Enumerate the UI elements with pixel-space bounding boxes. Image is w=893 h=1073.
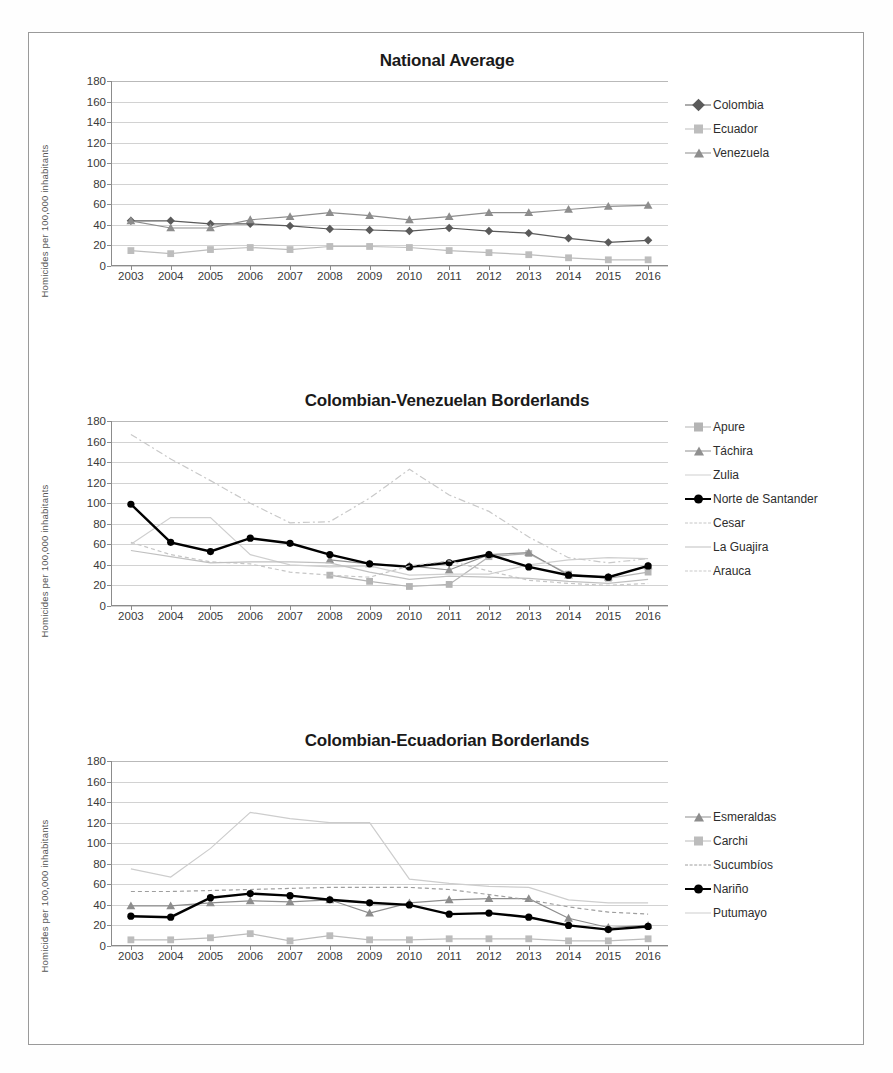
series-marker	[207, 894, 214, 901]
series-marker	[167, 539, 174, 546]
series-marker	[365, 226, 373, 234]
plot-wrap: 020406080100120140160180 200320042005200…	[55, 751, 865, 1041]
x-tick-label: 2016	[635, 610, 661, 622]
series-marker	[565, 254, 572, 261]
x-tick-label: 2010	[397, 270, 423, 282]
legend-marker-icon	[685, 445, 711, 457]
series-marker	[645, 562, 652, 569]
legend-item[interactable]: Esmeraldas	[685, 807, 885, 827]
series-marker	[446, 935, 453, 942]
series-marker	[207, 934, 214, 941]
y-tick-label: 100	[60, 837, 106, 849]
series-marker	[127, 501, 134, 508]
series-marker	[167, 936, 174, 943]
x-tick-label: 2010	[397, 950, 423, 962]
y-tick-label: 40	[60, 899, 106, 911]
series-layer	[111, 81, 668, 266]
chart-title: Colombian-Venezuelan Borderlands	[29, 391, 865, 411]
y-tick-label: 0	[60, 600, 106, 612]
plot-wrap: 020406080100120140160180 200320042005200…	[55, 71, 865, 371]
legend-item[interactable]: Apure	[685, 417, 885, 437]
x-tick-label: 2015	[596, 950, 622, 962]
y-tick-label: 180	[60, 75, 106, 87]
series-marker	[525, 229, 533, 237]
series-marker	[604, 238, 612, 246]
x-tick-label: 2007	[277, 270, 303, 282]
y-tick-label: 100	[60, 157, 106, 169]
legend-label: Cesar	[713, 516, 745, 530]
legend-item[interactable]: Arauca	[685, 561, 885, 581]
legend-marker-icon	[685, 907, 711, 919]
series-line	[131, 887, 648, 914]
y-tick-label: 40	[60, 559, 106, 571]
y-axis-label: Homicides per 100,000 inhabitants	[33, 71, 55, 371]
legend-marker-icon	[685, 99, 711, 111]
x-tick-label: 2008	[317, 610, 343, 622]
x-tick-label: 2005	[198, 610, 224, 622]
series-marker	[167, 250, 174, 257]
series-marker	[605, 937, 612, 944]
series-marker	[564, 234, 572, 242]
x-tick-label: 2013	[516, 610, 542, 622]
series-marker	[525, 251, 532, 258]
x-tick-label: 2003	[118, 270, 144, 282]
y-tick-label: 160	[60, 776, 106, 788]
x-tick-label: 2015	[596, 270, 622, 282]
y-tick-label: 140	[60, 456, 106, 468]
series-marker	[485, 910, 492, 917]
series-marker	[127, 913, 134, 920]
x-tick-label: 2003	[118, 610, 144, 622]
legend-label: Táchira	[713, 444, 753, 458]
legend-label: Arauca	[713, 564, 751, 578]
legend-marker-icon	[685, 541, 711, 553]
legend-item[interactable]: Ecuador	[685, 119, 885, 139]
x-tick-label: 2014	[556, 610, 582, 622]
series-marker	[644, 201, 653, 209]
chart-colombian-ecuadorian-borderlands: Colombian-Ecuadorian Borderlands Homicid…	[29, 719, 865, 1046]
legend-item[interactable]: Nariño	[685, 879, 885, 899]
series-marker	[446, 581, 453, 588]
series-marker	[445, 224, 453, 232]
legend-item[interactable]: Cesar	[685, 513, 885, 533]
series-marker	[406, 936, 413, 943]
legend-item[interactable]: Sucumbíos	[685, 855, 885, 875]
legend-item[interactable]: Zulia	[685, 465, 885, 485]
x-tick-label: 2011	[437, 610, 462, 622]
chart-title: National Average	[29, 51, 865, 71]
legend-marker-icon	[685, 835, 711, 847]
legend-marker-icon	[685, 493, 711, 505]
series-marker	[326, 932, 333, 939]
plot-area: 020406080100120140160180	[111, 421, 668, 606]
legend-item[interactable]: Norte de Santander	[685, 489, 885, 509]
y-tick-label: 60	[60, 198, 106, 210]
series-marker	[366, 578, 373, 585]
series-layer	[111, 761, 668, 946]
series-marker	[247, 535, 254, 542]
series-marker	[564, 914, 573, 922]
legend-item[interactable]: La Guajira	[685, 537, 885, 557]
legend-item[interactable]: Carchi	[685, 831, 885, 851]
x-tick-label: 2006	[237, 950, 263, 962]
x-tick-label: 2007	[277, 950, 303, 962]
y-tick-label: 80	[60, 178, 106, 190]
series-marker	[525, 914, 532, 921]
y-tick-label: 60	[60, 878, 106, 890]
series-marker	[207, 246, 214, 253]
legend-item[interactable]: Colombia	[685, 95, 885, 115]
series-marker	[127, 936, 134, 943]
x-tick-label: 2008	[317, 270, 343, 282]
x-tick-label: 2006	[237, 610, 263, 622]
series-marker	[446, 247, 453, 254]
legend-label: Putumayo	[713, 906, 767, 920]
legend-item[interactable]: Venezuela	[685, 143, 885, 163]
x-tick-label: 2005	[198, 950, 224, 962]
series-marker	[565, 922, 572, 929]
legend-item[interactable]: Putumayo	[685, 903, 885, 923]
series-line	[131, 504, 648, 577]
series-marker	[645, 935, 652, 942]
legend-item[interactable]: Táchira	[685, 441, 885, 461]
y-tick-label: 160	[60, 96, 106, 108]
y-tick-label: 20	[60, 579, 106, 591]
x-tick-label: 2004	[158, 610, 184, 622]
y-tick-label: 140	[60, 116, 106, 128]
